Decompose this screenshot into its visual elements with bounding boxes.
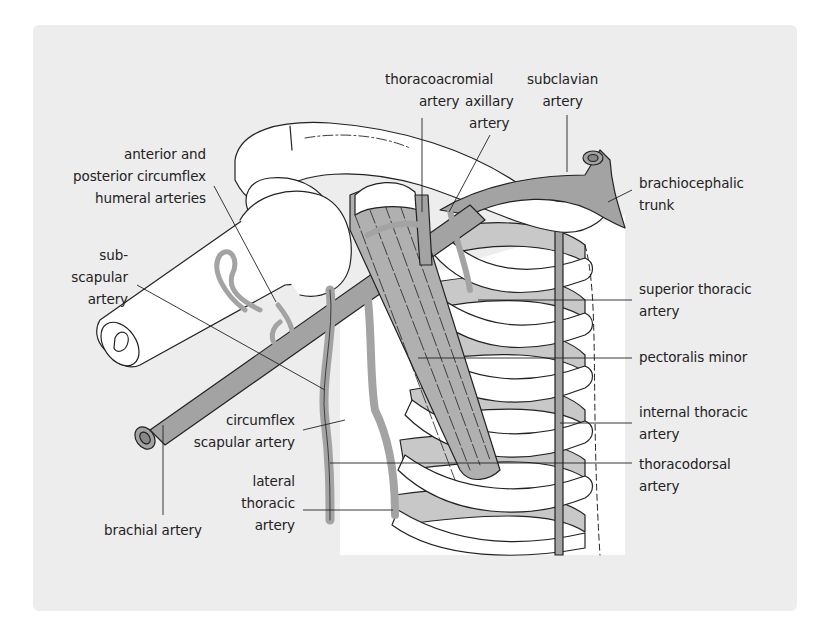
label-lateral-thoracic-artery: lateral thoracic artery [220, 470, 295, 536]
label-circumflex-humeral-arteries: anterior and posterior circumflex humera… [52, 143, 206, 209]
label-circumflex-scapular-artery: circumflex scapular artery [170, 409, 295, 453]
label-thoracodorsal-artery: thoracodorsal artery [639, 453, 731, 497]
label-axillary-artery: axillary artery [465, 90, 514, 134]
label-subclavian-artery: subclavian artery [527, 68, 598, 112]
label-brachiocephalic-trunk: brachiocephalic trunk [639, 172, 744, 216]
label-superior-thoracic-artery: superior thoracic artery [639, 278, 752, 322]
label-internal-thoracic-artery: internal thoracic artery [639, 401, 748, 445]
label-pectoralis-minor: pectoralis minor [639, 346, 747, 368]
label-subscapular-artery: sub- scapular artery [60, 244, 128, 310]
internal-thoracic-artery [555, 205, 563, 555]
label-brachial-artery: brachial artery [104, 519, 202, 541]
